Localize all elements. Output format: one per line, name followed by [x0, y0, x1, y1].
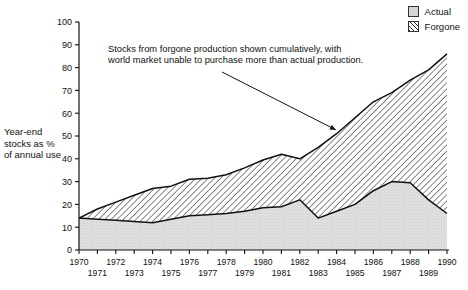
x-tick-label: 1972	[106, 257, 125, 267]
x-tick-label: 1981	[272, 268, 291, 278]
chart-plot: 0102030405060708090100 19701971197219731…	[0, 0, 468, 290]
x-tick-label: 1979	[235, 268, 254, 278]
y-tick-label: 90	[62, 40, 72, 50]
x-tick-label: 1989	[419, 268, 438, 278]
y-tick-label: 40	[62, 154, 72, 164]
y-tick-label: 20	[62, 200, 72, 210]
x-tick-label: 1985	[345, 268, 364, 278]
x-axis: 1970197119721973197419751976197719781979…	[69, 250, 456, 278]
x-tick-label: 1974	[143, 257, 162, 267]
y-tick-label: 30	[62, 177, 72, 187]
y-tick-label: 70	[62, 86, 72, 96]
x-tick-label: 1987	[382, 268, 401, 278]
x-tick-label: 1975	[161, 268, 180, 278]
x-tick-label: 1982	[290, 257, 309, 267]
y-axis: 0102030405060708090100	[57, 17, 79, 255]
x-tick-label: 1988	[401, 257, 420, 267]
y-tick-label: 80	[62, 63, 72, 73]
x-tick-label: 1978	[217, 257, 236, 267]
x-tick-label: 1983	[309, 268, 328, 278]
x-tick-label: 1980	[253, 257, 272, 267]
x-tick-label: 1977	[198, 268, 217, 278]
y-tick-label: 50	[62, 131, 72, 141]
chart-root: Actual Forgone Year-end stocks as % of a…	[0, 0, 468, 290]
x-tick-label: 1970	[69, 257, 88, 267]
x-tick-label: 1971	[88, 268, 107, 278]
annotation-arrow	[222, 72, 336, 130]
x-tick-label: 1973	[125, 268, 144, 278]
x-tick-label: 1984	[327, 257, 346, 267]
x-tick-label: 1976	[180, 257, 199, 267]
y-tick-label: 10	[62, 223, 72, 233]
x-tick-label: 1986	[364, 257, 383, 267]
y-tick-label: 0	[67, 245, 72, 255]
x-tick-label: 1990	[437, 257, 456, 267]
y-tick-label: 60	[62, 109, 72, 119]
y-tick-label: 100	[57, 17, 72, 27]
